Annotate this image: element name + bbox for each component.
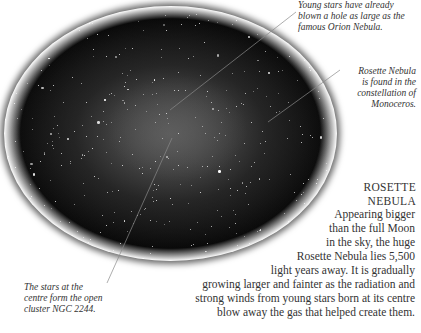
body-line: light years away. It is gradually	[0, 263, 415, 277]
caption-young-stars: Young stars have already blown a hole as…	[298, 0, 420, 33]
body-line: Appearing bigger	[0, 207, 415, 221]
caption-line: is found in the	[330, 77, 416, 88]
caption-constellation: Rosette Nebula is found in the constella…	[330, 66, 416, 110]
caption-line: constellation of	[330, 88, 416, 99]
body-line: Rosette Nebula lies 5,500	[0, 249, 415, 263]
body-line: in the sky, the huge	[0, 235, 415, 249]
caption-line: blown a hole as large as the	[298, 11, 420, 22]
body-line: than the full Moon	[0, 221, 415, 235]
title-line: NEBULA	[300, 194, 416, 208]
body-line: strong winds from young stars born at it…	[0, 291, 415, 305]
body-line: growing larger and fainter as the radiat…	[0, 277, 415, 291]
caption-line: Rosette Nebula	[330, 66, 416, 77]
article-title: ROSETTE NEBULA	[300, 180, 416, 208]
leader-line-top	[170, 12, 296, 110]
caption-line: Young stars have already	[298, 0, 420, 11]
caption-line: famous Orion Nebula.	[298, 22, 420, 33]
body-line: blow away the gas that helped create the…	[0, 305, 415, 319]
caption-line: Monoceros.	[330, 99, 416, 110]
article-body: Appearing bigger than the full Moon in t…	[0, 207, 415, 319]
title-line: ROSETTE	[300, 180, 416, 194]
